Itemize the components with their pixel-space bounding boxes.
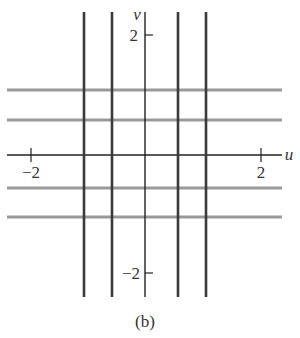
v-tick-label-neg2: −2 (122, 264, 140, 283)
coordinate-grid-diagram: −2 2 2 −2 u v (b) (0, 0, 300, 338)
u-tick-label-neg2: −2 (22, 163, 40, 182)
v-axis-label: v (133, 5, 141, 24)
v-tick-label-2: 2 (130, 26, 139, 45)
u-tick-label-2: 2 (257, 163, 266, 182)
figure-caption: (b) (135, 312, 155, 331)
u-axis-label: u (285, 145, 294, 164)
